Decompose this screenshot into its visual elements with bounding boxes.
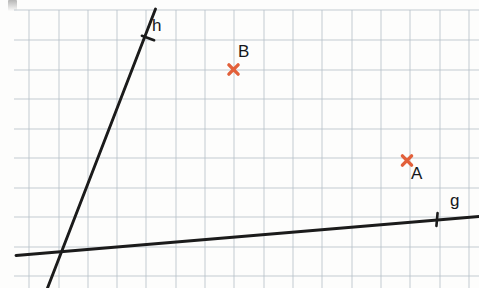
- figure-canvas: h g A B: [0, 0, 479, 288]
- marked-points: [229, 65, 412, 165]
- line-label-h: h: [152, 17, 161, 34]
- point-label-b: B: [238, 43, 249, 60]
- line-label-g: g: [450, 192, 459, 209]
- point-label-a: A: [411, 165, 422, 182]
- tick-mark-g: [436, 213, 437, 226]
